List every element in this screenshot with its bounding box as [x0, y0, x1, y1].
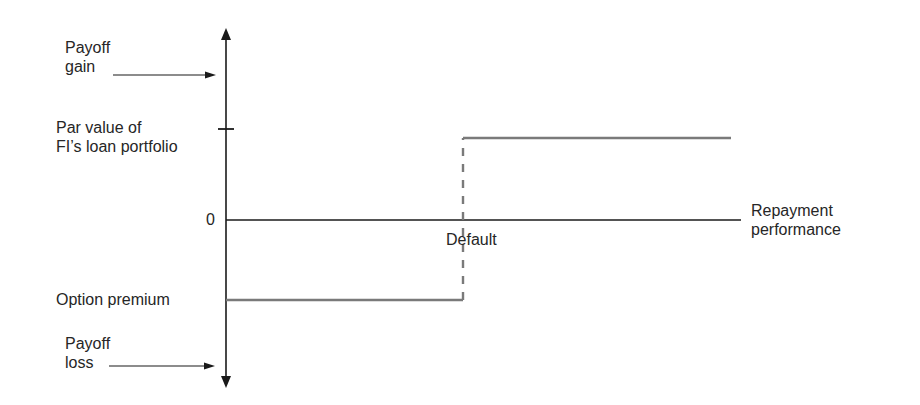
payoff-loss-label: Payoff loss	[65, 334, 110, 372]
payoff-loss-arrowhead-icon	[204, 363, 215, 370]
zero-label: 0	[206, 210, 215, 229]
par-value-line2: FI’s loan portfolio	[56, 137, 178, 156]
payoff-gain-arrowhead-icon	[205, 72, 216, 79]
payoff-loss-line2: loss	[65, 353, 110, 372]
repayment-line1: Repayment	[751, 201, 841, 220]
repayment-line2: performance	[751, 220, 841, 239]
default-label: Default	[446, 230, 497, 249]
payoff-loss-line1: Payoff	[65, 334, 110, 353]
y-axis-up-arrow-icon	[221, 28, 231, 40]
option-premium-label: Option premium	[56, 290, 170, 309]
par-value-label: Par value of FI’s loan portfolio	[56, 118, 178, 156]
par-value-line1: Par value of	[56, 118, 178, 137]
payoff-gain-line1: Payoff	[65, 38, 110, 57]
payoff-gain-line2: gain	[65, 57, 110, 76]
repayment-performance-label: Repayment performance	[751, 201, 841, 239]
payoff-gain-label: Payoff gain	[65, 38, 110, 76]
y-axis-down-arrow-icon	[221, 376, 231, 388]
